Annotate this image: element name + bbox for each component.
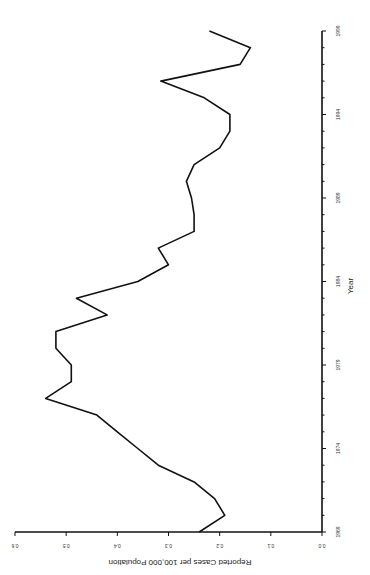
x-tick-label: 1979 (335, 359, 341, 370)
x-tick-label: 1984 (335, 276, 341, 287)
y-tick-label: 0.3 (165, 543, 172, 549)
x-tick-label: 1994 (335, 109, 341, 120)
x-axis-title: Year (346, 278, 355, 295)
y-tick-label: 0.0 (318, 543, 325, 549)
y-tick-label: 0.4 (114, 543, 121, 549)
x-tick-label: 1974 (335, 443, 341, 454)
chart-axes (15, 31, 322, 532)
x-tick-label: 1989 (335, 192, 341, 203)
x-tick-label: 1969 (335, 526, 341, 537)
axis-ticks: 19691974197919841989199419990.00.10.20.3… (11, 25, 341, 549)
y-tick-label: 0.5 (62, 543, 69, 549)
data-line (46, 31, 251, 532)
y-tick-label: 0.1 (267, 543, 274, 549)
y-tick-label: 0.6 (11, 543, 18, 549)
y-axis-title: Reported Cases per 100,000 Population (109, 558, 252, 567)
line-chart: 19691974197919841989199419990.00.10.20.3… (0, 0, 370, 575)
y-tick-label: 0.2 (216, 543, 223, 549)
x-tick-label: 1999 (335, 25, 341, 36)
